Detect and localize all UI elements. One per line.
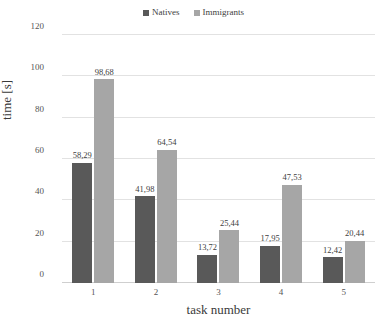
bar-natives: 41,98 — [135, 35, 155, 283]
y-axis-tick-label: 0 — [4, 270, 44, 279]
x-axis-tick-label: 1 — [72, 288, 114, 297]
bar-natives: 58,29 — [72, 35, 92, 283]
legend-swatch-immigrants — [194, 10, 200, 16]
bar-value-label: 17,95 — [261, 234, 280, 243]
bar-chart: Natives Immigrants time [s] 020406080100… — [0, 0, 387, 329]
x-axis-ticks: 12345 — [62, 288, 375, 297]
bar — [260, 246, 280, 283]
bar-value-label: 58,29 — [73, 151, 92, 160]
bar — [345, 241, 365, 283]
y-axis-tick-label: 120 — [4, 22, 44, 31]
bar-value-label: 13,72 — [198, 243, 217, 252]
x-axis-title: task number — [62, 302, 375, 318]
legend-label-immigrants: Immigrants — [203, 8, 245, 17]
bar-group: 12,4220,44 — [323, 35, 365, 283]
bar-immigrants: 25,44 — [219, 35, 239, 283]
legend-entry-immigrants: Immigrants — [194, 8, 245, 17]
bar-group: 17,9547,53 — [260, 35, 302, 283]
bar — [157, 150, 177, 283]
bar-immigrants: 47,53 — [282, 35, 302, 283]
x-axis-tick-label: 3 — [197, 288, 239, 297]
bar-group: 13,7225,44 — [197, 35, 239, 283]
bar-natives: 13,72 — [197, 35, 217, 283]
bar-value-label: 12,42 — [323, 246, 342, 255]
bar-immigrants: 64,54 — [157, 35, 177, 283]
plot-area: 020406080100120 58,2998,6841,9864,5413,7… — [62, 35, 375, 283]
bar-group: 41,9864,54 — [135, 35, 177, 283]
x-axis-tick-label: 5 — [323, 288, 365, 297]
bar — [282, 185, 302, 283]
y-axis-tick-label: 60 — [4, 146, 44, 155]
bar-value-label: 64,54 — [157, 138, 176, 147]
legend-label-natives: Natives — [152, 8, 180, 17]
bar-immigrants: 20,44 — [345, 35, 365, 283]
bar — [135, 196, 155, 283]
bar-value-label: 20,44 — [345, 229, 364, 238]
bar — [219, 230, 239, 283]
x-axis-tick-label: 2 — [135, 288, 177, 297]
y-axis-tick-label: 40 — [4, 187, 44, 196]
legend-entry-natives: Natives — [143, 8, 180, 17]
bar — [323, 257, 343, 283]
bar — [72, 163, 92, 283]
y-axis-tick-label: 20 — [4, 228, 44, 237]
legend-swatch-natives — [143, 10, 149, 16]
y-axis-tick-label: 80 — [4, 104, 44, 113]
bar-natives: 12,42 — [323, 35, 343, 283]
bar-group: 58,2998,68 — [72, 35, 114, 283]
bar-value-label: 25,44 — [220, 219, 239, 228]
bar-immigrants: 98,68 — [94, 35, 114, 283]
bar-value-label: 47,53 — [283, 173, 302, 182]
bar — [94, 79, 114, 283]
x-axis-tick-label: 4 — [260, 288, 302, 297]
bar — [197, 255, 217, 283]
bar-natives: 17,95 — [260, 35, 280, 283]
y-axis-tick-label: 100 — [4, 63, 44, 72]
bar-value-label: 98,68 — [95, 68, 114, 77]
bar-value-label: 41,98 — [135, 185, 154, 194]
bar-groups: 58,2998,6841,9864,5413,7225,4417,9547,53… — [62, 35, 375, 283]
chart-legend: Natives Immigrants — [0, 8, 387, 17]
